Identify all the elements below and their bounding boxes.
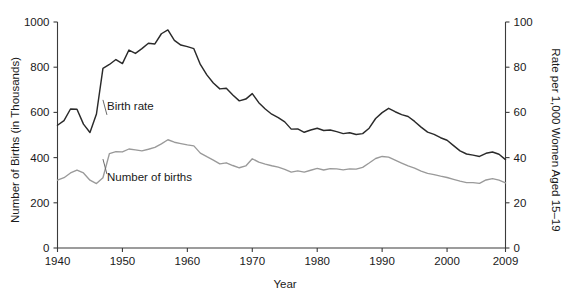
bottom-tick-label: 2009 — [493, 255, 519, 267]
left-tick-label: 800 — [30, 61, 49, 73]
left-axis-title: Number of Births (in Thousands) — [9, 57, 21, 223]
right-tick-label: 100 — [514, 16, 533, 28]
left-tick-label: 400 — [30, 152, 49, 164]
bottom-tick-label: 1990 — [369, 255, 395, 267]
left-tick-label: 0 — [43, 242, 49, 254]
left-tick-label: 600 — [30, 106, 49, 118]
right-tick-label: 0 — [514, 242, 520, 254]
inline-annotations: Birth rate Number of births — [103, 100, 192, 183]
number-of-births-series-label: Number of births — [107, 171, 192, 183]
bottom-tick-label: 1950 — [110, 255, 136, 267]
right-axis-title: Rate per 1,000 Women Aged 15–19 — [550, 48, 562, 231]
right-tick-label: 40 — [514, 152, 527, 164]
left-tick-label: 1000 — [24, 16, 50, 28]
left-axis-ticks: 02004006008001000 — [24, 16, 58, 254]
bottom-tick-label: 2000 — [434, 255, 460, 267]
bottom-tick-label: 1970 — [239, 255, 265, 267]
plot-axes — [58, 22, 506, 248]
birth-rate-series-label: Birth rate — [107, 100, 154, 112]
bottom-axis-title: Year — [273, 278, 296, 290]
bottom-tick-label: 1960 — [175, 255, 201, 267]
birth-rate-line-chart: 02004006008001000 020406080100 194019501… — [0, 0, 571, 294]
bottom-tick-label: 1980 — [304, 255, 330, 267]
bottom-axis-ticks: 19401950196019701980199020002009 — [45, 248, 519, 267]
series-birth-rate — [58, 30, 506, 160]
right-tick-label: 80 — [514, 61, 527, 73]
left-tick-label: 200 — [30, 197, 49, 209]
right-tick-label: 20 — [514, 197, 527, 209]
bottom-tick-label: 1940 — [45, 255, 71, 267]
chart-container: 02004006008001000 020406080100 194019501… — [0, 0, 571, 294]
right-tick-label: 60 — [514, 106, 527, 118]
right-axis-ticks: 020406080100 — [506, 16, 533, 254]
